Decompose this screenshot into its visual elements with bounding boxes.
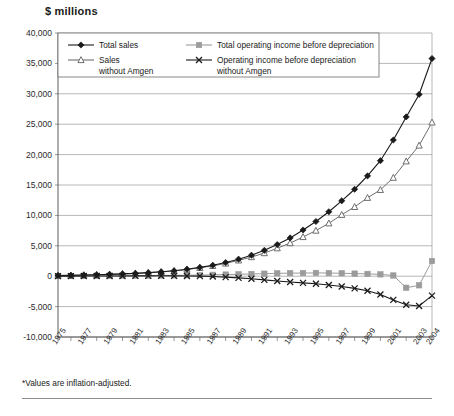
legend-label: Sales [99,55,120,65]
chart-footnote: *Values are inflation-adjusted. [22,378,132,388]
data-point [326,220,332,226]
y-axis-label: 30,000 [26,89,52,99]
x-axis-label: 1997 [334,326,352,346]
x-axis-label: 1991 [257,326,275,346]
series-1 [55,119,435,278]
data-point [287,235,293,241]
data-point [313,270,318,275]
x-axis-label: 1979 [102,326,120,346]
data-point [365,271,370,276]
y-axis-label: -10,000 [23,332,52,342]
data-point [364,194,370,200]
series-0 [55,55,435,278]
data-point [300,227,306,233]
data-point [416,283,421,288]
data-point [390,297,396,303]
series-3 [55,273,435,309]
data-point [352,271,357,276]
series-line [58,122,432,275]
data-point [416,91,422,97]
data-point [313,227,319,233]
y-axis-label: -5,000 [28,302,52,312]
y-axis-label: 10,000 [26,210,52,220]
data-point [287,270,292,275]
footer-divider [22,398,432,399]
data-point [339,211,345,217]
x-axis-label: 2004 [424,326,442,346]
data-point [300,234,306,240]
x-axis-label: 1987 [205,326,223,346]
y-axis-label: 40,000 [26,28,52,38]
y-axis-label: 15,000 [26,180,52,190]
y-axis-label: 35,000 [26,58,52,68]
x-axis-label: 1993 [282,326,300,346]
data-point [262,271,267,276]
legend-label: Total operating income before depreciati… [217,40,374,50]
data-point [429,119,435,125]
data-point [249,271,254,276]
data-point [378,272,383,277]
data-point [403,114,409,120]
chart-plot-area: 40,00035,00030,00025,00020,00015,00010,0… [0,0,454,416]
y-axis-label: 0 [47,271,52,281]
y-axis-label: 20,000 [26,150,52,160]
legend-marker [196,42,201,47]
x-axis-label: 1999 [360,326,378,346]
x-axis-label: 1989 [231,326,249,346]
x-axis-label: 1977 [76,326,94,346]
x-axis-label: 1981 [128,326,146,346]
x-axis-label: 1983 [153,326,171,346]
chart-svg: 40,00035,00030,00025,00020,00015,00010,0… [0,0,454,416]
data-point [377,291,383,297]
data-point [300,270,305,275]
x-axis-label: 2001 [386,326,404,346]
series-line [58,59,432,276]
legend-label: Total sales [99,40,138,50]
data-point [429,258,434,263]
data-point [416,142,422,148]
data-point [391,273,396,278]
x-axis-label: 1995 [308,326,326,346]
data-point [429,55,435,61]
series-line [58,276,432,306]
data-point [274,241,280,247]
x-axis-label: 1975 [50,326,68,346]
legend-label-line2: without Amgen [98,66,154,76]
data-point [339,271,344,276]
chart-legend: Total salesTotal operating income before… [58,33,379,77]
data-point [326,270,331,275]
legend-label: Operating income before depreciation [217,55,356,65]
data-point [352,204,358,210]
y-axis-label: 25,000 [26,119,52,129]
data-point [275,271,280,276]
legend-label-line2: without Amgen [216,66,272,76]
data-point [404,285,409,290]
x-axis-label: 1985 [179,326,197,346]
data-point [390,137,396,143]
y-axis-label: 5,000 [31,241,53,251]
